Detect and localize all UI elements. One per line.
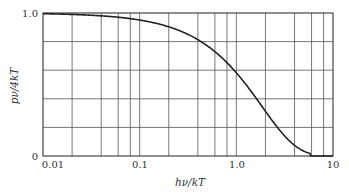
x-tick-0.01: 0.01	[42, 159, 64, 170]
x-tick-10: 10	[327, 159, 340, 170]
data-curve	[43, 14, 333, 156]
y-tick-bottom: 0	[32, 151, 38, 162]
x-axis-label: hν/kT	[175, 176, 206, 188]
y-tick-top: 1.0	[22, 8, 38, 19]
y-axis-label: pν/4kT	[8, 67, 20, 105]
chart: 1.0 0 0.01 0.1 1.0 10 hν/kT pν/4kT	[0, 0, 349, 194]
x-tick-0.1: 0.1	[132, 159, 148, 170]
x-tick-1.0: 1.0	[229, 159, 245, 170]
